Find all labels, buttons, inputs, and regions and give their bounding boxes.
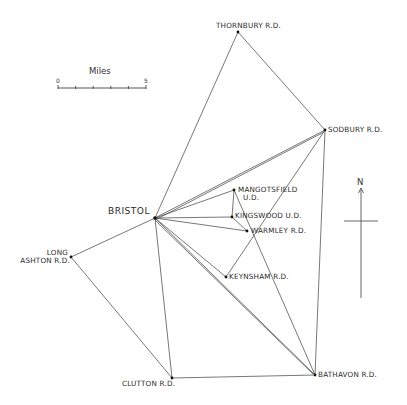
edge-clutton-bathavon (172, 375, 315, 378)
label-clutton: CLUTTON R.D. (122, 380, 175, 388)
node-warmley (246, 230, 249, 233)
edge-bristol-bathavon (155, 218, 315, 375)
node-bathavon (314, 374, 317, 377)
north-arrow-icon (344, 188, 378, 298)
scale-bar-start-label: 0 (56, 77, 60, 84)
label-bathavon: BATHAVON R.D. (318, 371, 377, 379)
edge-bristol-kingswood (155, 217, 232, 218)
label-warmley: WARMLEY R.D. (251, 227, 306, 235)
label-bristol: BRISTOL (108, 207, 150, 215)
node-long_ashton (70, 256, 73, 259)
north-label: N (357, 177, 363, 187)
edge-bristol-bathavon_b (155, 220, 313, 374)
edge-mangotsfield-kingswood (232, 190, 234, 217)
scale-bar-title: Miles (89, 66, 111, 76)
node-bristol (153, 216, 157, 220)
edge-bristol-sodbury_b (155, 132, 324, 220)
edge-sodbury-keynsham (226, 130, 325, 277)
node-thornbury (237, 31, 240, 34)
label-keynsham: KEYNSHAM R.D. (229, 273, 289, 281)
node-sodbury (324, 129, 327, 132)
network-nodes (70, 31, 327, 380)
edge-bristol-thornbury (155, 32, 238, 218)
scale-bar-end-label: 5 (144, 77, 148, 84)
network-edges (71, 32, 325, 378)
edge-bristol-mangotsfield (155, 190, 234, 218)
edge-bristol-long_ashton (71, 218, 155, 257)
edge-bristol-clutton (155, 218, 172, 378)
label-kingswood: KINGSWOOD U.D. (235, 212, 302, 220)
node-keynsham (225, 276, 228, 279)
label-thornbury: THORNBURY R.D. (216, 22, 281, 30)
network-diagram (0, 0, 407, 405)
node-kingswood (231, 216, 234, 219)
label-long-ashton-2: ASHTON R.D. (18, 257, 70, 265)
edge-thornbury-sodbury (238, 32, 325, 130)
node-mangotsfield (233, 189, 236, 192)
edge-sodbury-bathavon (315, 130, 325, 375)
label-mangotsfield-ud: U.D. (243, 194, 259, 202)
edge-long_ashton-clutton (71, 257, 172, 378)
scale-bar (58, 85, 146, 89)
edge-bristol-sodbury (155, 130, 325, 218)
label-sodbury: SODBURY R.D. (328, 126, 382, 134)
